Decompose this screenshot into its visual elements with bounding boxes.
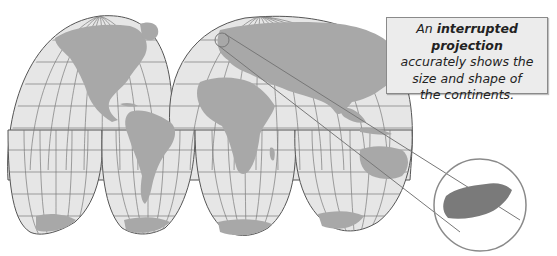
enlarged-land: [443, 183, 512, 219]
callout-line-1: An interrupted projection: [387, 21, 547, 54]
callout-line-2: accurately shows the: [387, 54, 547, 71]
antarctica-africa-land: [218, 219, 272, 235]
callout-box: An interrupted projection accurately sho…: [386, 17, 548, 94]
callout-line-3: size and shape of: [387, 71, 547, 88]
antarctica-sa-land: [124, 217, 170, 233]
callout-bold-term: interrupted projection: [431, 21, 518, 53]
callout-prefix: An: [416, 21, 432, 36]
callout-line-4: the continents.: [387, 87, 547, 104]
